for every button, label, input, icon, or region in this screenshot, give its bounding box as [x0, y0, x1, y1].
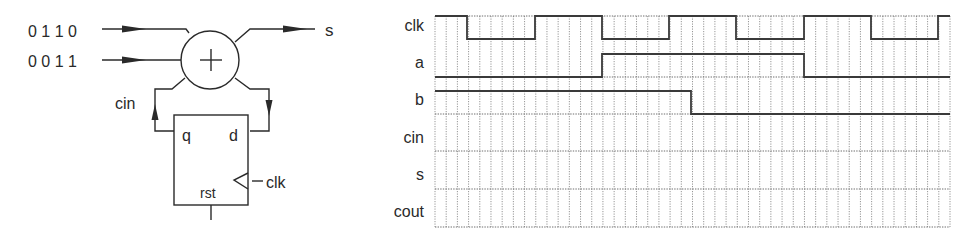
signal-labels: clk a b cin s cout — [394, 17, 425, 220]
timing-grid — [435, 16, 950, 227]
signal-label-cout: cout — [394, 203, 425, 220]
arrow-down-icon — [266, 100, 273, 116]
arrow-up-icon — [152, 104, 159, 120]
input-b-wire — [102, 57, 182, 64]
signal-label-cin: cin — [404, 129, 424, 146]
arrow-right-icon — [283, 26, 307, 33]
serial-adder-figure: 0 1 1 0 0 0 1 1 s — [0, 0, 977, 249]
input-b-label: 0 0 1 1 — [28, 53, 77, 70]
timing-diagram: clk a b cin s cout — [394, 16, 950, 227]
rst-port-label: rst — [200, 185, 216, 201]
signal-label-s: s — [416, 166, 424, 183]
signal-label-a: a — [415, 54, 424, 71]
arrow-right-icon — [122, 26, 146, 33]
adder — [181, 31, 239, 89]
arrow-right-icon — [122, 57, 146, 64]
d-port-label: d — [229, 127, 238, 144]
signal-label-clk: clk — [404, 17, 425, 34]
input-a-label: 0 1 1 0 — [28, 23, 77, 40]
signal-label-b: b — [415, 91, 424, 108]
clk-port-label: clk — [266, 174, 287, 191]
input-a-wire — [102, 26, 189, 34]
cin-label: cin — [115, 95, 135, 112]
serial-adder-circuit: 0 1 1 0 0 0 1 1 s — [28, 21, 334, 220]
output-s-label: s — [325, 21, 334, 40]
q-port-label: q — [182, 127, 191, 144]
output-s-wire: s — [235, 21, 334, 42]
